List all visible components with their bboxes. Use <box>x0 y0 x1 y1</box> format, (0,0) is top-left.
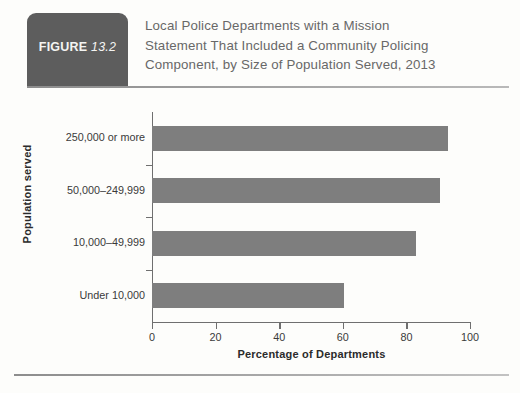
x-axis-title: Percentage of Departments <box>152 348 471 360</box>
y-axis-tick-2 <box>146 217 152 218</box>
x-axis-tick-label-40: 40 <box>259 331 299 343</box>
y-axis-tick-1 <box>146 165 152 166</box>
x-axis-tick-label-60: 60 <box>323 331 363 343</box>
figure-title-line-3: Component, by Size of Population Served,… <box>145 55 510 75</box>
figure-title-line-2: Statement That Included a Community Poli… <box>145 36 510 56</box>
x-axis-tick-60 <box>343 323 344 329</box>
x-axis-tick-40 <box>279 323 280 329</box>
footer-divider <box>14 374 509 376</box>
y-axis-label-1: 250,000 or more <box>5 131 145 143</box>
x-axis-tick-label-0: 0 <box>132 331 172 343</box>
y-axis-tick-3 <box>146 270 152 271</box>
y-axis-label-3: 10,000–49,999 <box>5 236 145 248</box>
bar-3 <box>152 231 416 256</box>
x-axis-tick-100 <box>470 323 471 329</box>
plot-area <box>152 112 470 322</box>
figure-word: FIGURE <box>39 40 87 54</box>
figure-number-badge: FIGURE 13.2 <box>27 13 128 87</box>
bar-chart: Population served 250,000 or more50,000–… <box>0 92 520 347</box>
x-axis-tick-label-20: 20 <box>196 331 236 343</box>
figure-badge-label: FIGURE 13.2 <box>27 40 128 54</box>
figure-number: 13.2 <box>91 40 116 54</box>
figure-title: Local Police Departments with a Mission … <box>145 16 510 75</box>
y-axis-tick-labels: 250,000 or more50,000–249,99910,000–49,9… <box>0 112 145 323</box>
x-axis-tick-0 <box>152 323 153 329</box>
x-axis-tick-20 <box>216 323 217 329</box>
bar-1 <box>152 126 448 151</box>
figure-header: FIGURE 13.2 Local Police Departments wit… <box>0 0 520 92</box>
figure-title-line-1: Local Police Departments with a Mission <box>145 16 510 36</box>
y-axis-label-4: Under 10,000 <box>5 289 145 301</box>
y-axis-label-2: 50,000–249,999 <box>5 184 145 196</box>
x-axis-tick-80 <box>406 323 407 329</box>
x-axis-tick-label-100: 100 <box>450 331 490 343</box>
header-divider <box>27 86 509 88</box>
x-axis-tick-label-80: 80 <box>386 331 426 343</box>
bar-2 <box>152 178 440 203</box>
x-axis-line <box>152 322 471 323</box>
bar-4 <box>152 283 344 308</box>
